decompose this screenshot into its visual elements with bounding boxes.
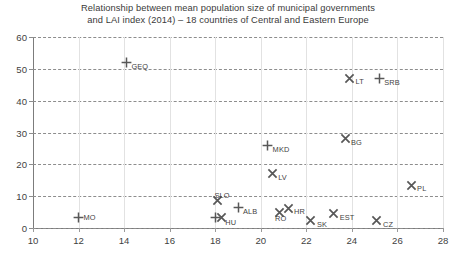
data-point-label: MO [84, 213, 96, 222]
x-axis-tick [352, 228, 353, 232]
x-axis-tick-label: 16 [164, 235, 175, 246]
x-axis-tick [79, 228, 80, 232]
data-point-label: SLO [215, 191, 230, 200]
y-axis-tick [29, 133, 33, 134]
y-axis-tick-label: 50 [16, 63, 27, 74]
gridline-horizontal [33, 228, 443, 229]
y-axis-tick-label: 60 [16, 32, 27, 43]
cross-marker-icon [305, 215, 316, 226]
x-axis-tick [443, 228, 444, 232]
gridline-vertical [79, 37, 80, 228]
gridline-horizontal [33, 133, 443, 134]
x-axis-tick [170, 228, 171, 232]
y-axis-tick [29, 69, 33, 70]
data-point-label: BG [351, 138, 362, 147]
y-axis-tick-label: 40 [16, 95, 27, 106]
data-point-label: GEQ [131, 62, 148, 71]
x-axis-tick [306, 228, 307, 232]
gridline-vertical [261, 37, 262, 228]
data-point-label: CZ [383, 220, 393, 229]
gridline-horizontal [33, 164, 443, 165]
gridline-vertical [352, 37, 353, 228]
y-axis-tick [29, 164, 33, 165]
x-axis-tick-label: 12 [73, 235, 84, 246]
data-point-label: SRB [384, 78, 400, 87]
plus-marker-icon [73, 212, 84, 223]
data-point-label: MKD [273, 145, 290, 154]
data-point-label: ALB [243, 207, 257, 216]
data-point-label: LV [278, 173, 287, 182]
x-axis-tick-label: 14 [119, 235, 130, 246]
gridline-vertical [443, 37, 444, 228]
scatter-chart: Relationship between mean population siz… [0, 0, 456, 261]
gridline-vertical [306, 37, 307, 228]
plus-marker-icon [121, 57, 132, 68]
x-axis-tick [124, 228, 125, 232]
y-axis-tick-label: 30 [16, 127, 27, 138]
y-axis-tick [29, 196, 33, 197]
gridline-horizontal [33, 37, 443, 38]
plus-marker-icon [233, 202, 244, 213]
gridline-vertical [397, 37, 398, 228]
plus-marker-icon [262, 140, 273, 151]
x-axis-tick [397, 228, 398, 232]
cross-marker-icon [328, 208, 339, 219]
data-point-label: LT [356, 77, 364, 86]
x-axis-tick-labels: 10121416182022242628 [33, 235, 443, 249]
x-axis-tick [215, 228, 216, 232]
cross-marker-icon [371, 215, 382, 226]
x-axis-tick-label: 24 [347, 235, 358, 246]
plot-area: GEQLTSRBBGMKDLVPLSLOALBHRROESTHUMOSKCZ [33, 37, 443, 228]
gridline-vertical [170, 37, 171, 228]
y-axis-tick [29, 37, 33, 38]
gridline-horizontal [33, 101, 443, 102]
cross-marker-icon [267, 168, 278, 179]
y-axis-tick [29, 101, 33, 102]
data-point-label: RO [275, 214, 286, 223]
x-axis-tick-label: 28 [438, 235, 449, 246]
gridline-horizontal [33, 196, 443, 197]
x-axis-tick [261, 228, 262, 232]
data-point-label: HR [294, 207, 305, 216]
y-axis-tick-label: 0 [22, 223, 27, 234]
cross-marker-icon [340, 133, 351, 144]
x-axis-tick-label: 22 [301, 235, 312, 246]
data-point-label: HU [225, 218, 236, 227]
y-axis-tick-label: 20 [16, 159, 27, 170]
y-axis-tick-labels: 0102030405060 [0, 37, 27, 228]
cross-marker-icon [344, 73, 355, 84]
x-axis-tick-label: 10 [28, 235, 39, 246]
x-axis-tick-label: 18 [210, 235, 221, 246]
chart-title: Relationship between mean population siz… [0, 2, 456, 27]
x-axis-tick-label: 26 [392, 235, 403, 246]
x-axis-tick [33, 228, 34, 232]
y-axis-tick-label: 10 [16, 191, 27, 202]
plus-marker-icon [374, 73, 385, 84]
gridline-horizontal [33, 69, 443, 70]
data-point-label: PL [417, 184, 426, 193]
x-axis-tick-label: 20 [255, 235, 266, 246]
data-point-label: SK [317, 220, 327, 229]
cross-marker-icon [406, 180, 417, 191]
data-point-label: EST [340, 213, 355, 222]
